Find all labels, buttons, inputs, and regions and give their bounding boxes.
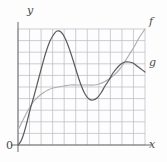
graph-figure: y x f g 0 [0, 0, 167, 162]
curve-g-label: g [149, 57, 156, 68]
curve-g [18, 29, 145, 130]
origin-label: 0 [6, 140, 13, 151]
x-axis-label: x [149, 139, 155, 150]
plot-svg [0, 0, 167, 162]
y-axis-label: y [27, 5, 33, 16]
curve-f-label: f [149, 16, 153, 27]
curve-f [18, 31, 145, 145]
